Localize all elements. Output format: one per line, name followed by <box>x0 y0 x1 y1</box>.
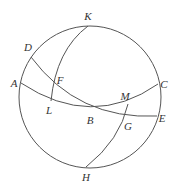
spherical-diagram: KDACEHFLBMG <box>0 0 181 191</box>
point-label-m: M <box>119 90 130 102</box>
point-labels: KDACEHFLBMG <box>10 10 169 183</box>
arc-group <box>21 26 158 167</box>
point-label-f: F <box>56 74 64 86</box>
point-label-d: D <box>23 41 32 53</box>
point-label-b: B <box>87 114 94 126</box>
arc-KL <box>51 26 88 101</box>
outer-circle <box>19 26 161 168</box>
point-label-a: A <box>10 77 18 89</box>
point-label-h: H <box>81 171 91 183</box>
point-label-k: K <box>83 10 92 22</box>
arc-AC <box>21 83 158 107</box>
point-label-l: L <box>45 104 52 116</box>
point-label-c: C <box>160 78 168 90</box>
point-label-g: G <box>124 120 132 132</box>
point-label-e: E <box>158 112 166 124</box>
